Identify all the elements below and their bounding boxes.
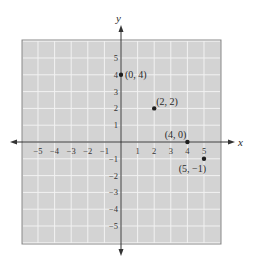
- y-tick-label: 5: [114, 53, 118, 63]
- x-axis-right-arrow-icon: [228, 140, 235, 145]
- x-axis-left-arrow-icon: [10, 140, 17, 145]
- x-tick-label: 3: [169, 146, 173, 156]
- x-tick-label: 1: [135, 146, 139, 156]
- data-point: [202, 157, 206, 161]
- x-tick-label: 2: [152, 146, 156, 156]
- data-point: [185, 140, 189, 144]
- data-point-label: (5, −1): [179, 163, 206, 175]
- coordinate-plane: x y −5−4−3−2−112345 54321−1−2−3−4−5 (0, …: [0, 0, 256, 262]
- x-tick-label: −5: [33, 146, 42, 156]
- data-point-label: (2, 2): [156, 96, 178, 108]
- y-tick-label: 1: [114, 120, 118, 130]
- data-point: [119, 73, 123, 77]
- x-tick-label: −1: [100, 146, 109, 156]
- y-tick-label: 2: [114, 103, 118, 113]
- y-axis-up-arrow-icon: [119, 25, 124, 32]
- y-axis-label: y: [115, 12, 121, 24]
- data-point-label: (0, 4): [125, 69, 147, 81]
- x-tick-label: −3: [67, 146, 76, 156]
- x-tick-label: 4: [185, 146, 190, 156]
- x-axis-label: x: [237, 136, 243, 148]
- y-tick-label: −5: [109, 221, 118, 231]
- y-tick-label: −2: [109, 171, 118, 181]
- x-tick-label: 5: [202, 146, 206, 156]
- y-axis-down-arrow-icon: [119, 249, 124, 256]
- data-point-label: (4, 0): [165, 129, 187, 141]
- y-tick-label: 3: [114, 87, 118, 97]
- y-tick-label: −4: [109, 204, 119, 214]
- x-tick-label: −2: [83, 146, 92, 156]
- y-tick-label: −3: [109, 187, 118, 197]
- x-tick-label: −4: [50, 146, 60, 156]
- y-tick-label: −1: [109, 154, 118, 164]
